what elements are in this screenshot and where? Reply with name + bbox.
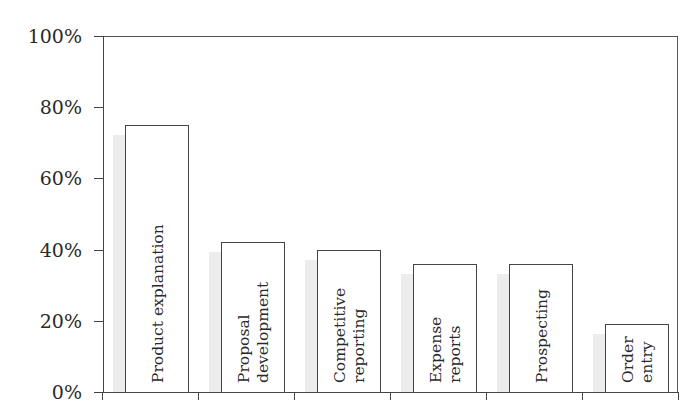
plot-frame-top — [103, 36, 678, 37]
bar: Expense reports — [413, 264, 477, 393]
bar: Prospecting — [509, 264, 573, 393]
y-tick-label: 100% — [2, 26, 82, 46]
y-tick-label: 60% — [2, 168, 82, 188]
y-tick-mark — [94, 107, 103, 108]
y-axis-line — [103, 36, 104, 392]
x-tick-mark — [102, 392, 103, 400]
plot-frame-right — [677, 36, 678, 392]
bar-category-label: Product explanation — [149, 224, 168, 383]
bar-shadow — [305, 260, 317, 392]
x-tick-mark — [294, 392, 295, 400]
x-tick-mark — [678, 392, 679, 400]
bar: Proposal development — [221, 242, 285, 393]
y-tick-label: 20% — [2, 311, 82, 331]
bar-category-label: Order entry — [619, 336, 657, 383]
y-tick-mark — [94, 321, 103, 322]
x-tick-mark — [582, 392, 583, 400]
y-tick-label: 80% — [2, 97, 82, 117]
y-tick-label: 0% — [2, 382, 82, 402]
bar-shadow — [593, 334, 605, 392]
y-tick-mark — [94, 178, 103, 179]
x-tick-mark — [390, 392, 391, 400]
bar-shadow — [113, 135, 125, 392]
y-tick-mark — [94, 36, 103, 37]
x-tick-mark — [198, 392, 199, 400]
bar: Order entry — [605, 324, 669, 393]
bar-shadow — [497, 274, 509, 392]
bar: Competitive reporting — [317, 250, 381, 393]
bar-shadow — [401, 274, 413, 392]
y-tick-label: 40% — [2, 240, 82, 260]
bar-category-label: Competitive reporting — [331, 288, 369, 383]
bar-chart: 0% 20% 40% 60% 80% 100% Product explanat… — [0, 0, 700, 420]
bar-category-label: Prospecting — [533, 289, 552, 383]
x-tick-mark — [486, 392, 487, 400]
bar-category-label: Proposal development — [235, 282, 273, 383]
bar-shadow — [209, 252, 221, 392]
y-tick-mark — [94, 250, 103, 251]
bar: Product explanation — [125, 125, 189, 393]
bar-category-label: Expense reports — [427, 317, 465, 383]
